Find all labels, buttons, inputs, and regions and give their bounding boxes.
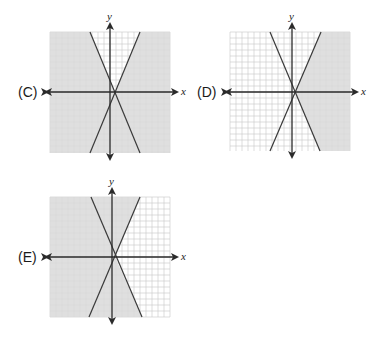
x-axis-label: x: [360, 85, 366, 97]
graph-c: xy: [44, 10, 186, 161]
x-axis-label: x: [180, 250, 186, 262]
x-axis-label: x: [180, 85, 186, 97]
y-axis-label: y: [108, 175, 114, 187]
y-axis-label: y: [106, 10, 112, 22]
graph-d: xy: [224, 10, 366, 159]
graph-e: xy: [44, 175, 186, 325]
graphs-canvas: xy xy xy: [0, 0, 383, 342]
y-axis-label: y: [288, 10, 294, 22]
